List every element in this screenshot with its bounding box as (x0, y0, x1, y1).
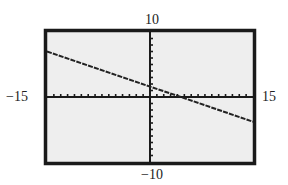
graph-screen (0, 0, 288, 185)
